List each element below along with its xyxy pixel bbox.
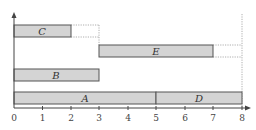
- bar-B: B: [14, 69, 99, 81]
- svg-text:D: D: [194, 93, 203, 104]
- bar-D: D: [156, 92, 242, 104]
- tick-2: 2: [68, 113, 74, 123]
- tick-7: 7: [210, 113, 216, 123]
- tick-4: 4: [125, 113, 131, 123]
- bar-E: E: [99, 45, 213, 57]
- bar-A: A: [14, 92, 156, 104]
- tick-6: 6: [182, 113, 188, 123]
- tick-1: 1: [40, 113, 46, 123]
- tick-0: 0: [11, 113, 17, 123]
- tick-5: 5: [153, 113, 159, 123]
- svg-text:A: A: [80, 93, 88, 104]
- y-axis-arrow-icon: [12, 12, 17, 18]
- svg-text:E: E: [151, 46, 160, 57]
- tick-8: 8: [239, 113, 245, 123]
- x-axis: 0 1 2 3 4 5 6 7 8: [11, 106, 251, 124]
- x-axis-arrow-icon: [245, 106, 251, 111]
- svg-text:B: B: [51, 70, 59, 81]
- gantt-chart: C E B A D 0 1 2 3: [0, 0, 256, 130]
- bar-C: C: [14, 25, 71, 37]
- tick-3: 3: [96, 113, 102, 123]
- svg-text:C: C: [38, 26, 46, 37]
